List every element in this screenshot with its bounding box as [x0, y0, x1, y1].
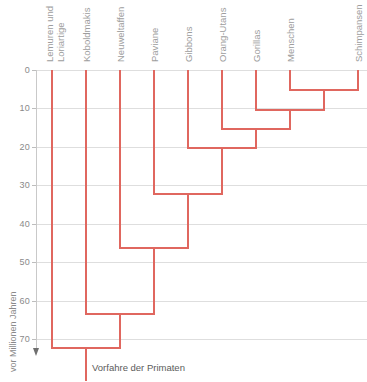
leaf-label-line2: Loriartige [55, 22, 66, 62]
branch-orang-utans-stem [221, 70, 223, 129]
branch-schimpansen-stem [357, 70, 359, 90]
y-tick-label-10: 10 [14, 103, 30, 113]
node-gorillas-clade-stem [289, 109, 291, 129]
y-tick-label-30: 30 [14, 180, 30, 190]
leaf-label-line1: Lemuren und [44, 6, 55, 62]
primate-phylogeny-chart: 0 10 20 30 40 50 60 70 vor Millionen Jah… [0, 0, 367, 382]
tick-mark-0 [32, 70, 36, 71]
node-koboldmakis-clade-stem [119, 313, 121, 348]
tick-mark-40 [32, 224, 36, 225]
node-menschen-schimpansen-stem [323, 89, 325, 110]
tick-mark-70 [32, 339, 36, 340]
y-tick-label-50: 50 [14, 257, 30, 267]
branch-menschen-stem [289, 70, 291, 90]
tick-mark-50 [32, 262, 36, 263]
node-paviane-clade-stem [187, 193, 189, 248]
leaf-label-lemuren-und-loriartige: Lemuren und Loriartige [45, 6, 66, 62]
tick-mark-10 [32, 108, 36, 109]
leaf-label-paviane: Paviane [150, 28, 160, 62]
branch-paviane-stem [153, 70, 155, 194]
tick-mark-30 [32, 185, 36, 186]
leaf-label-menschen: Menschen [286, 18, 296, 62]
y-tick-label-0: 0 [14, 65, 30, 75]
gridline-70 [36, 339, 367, 340]
y-tick-label-40: 40 [14, 219, 30, 229]
branch-gibbons-stem [187, 70, 189, 148]
root-annotation-label: Vorfahre der Primaten [92, 362, 185, 373]
leaf-label-koboldmakis: Koboldmakis [82, 8, 92, 62]
node-neuweltaffen-clade-stem [153, 247, 155, 314]
leaf-label-orang-utans: Orang-Utans [218, 8, 228, 62]
axis-arrow-icon [33, 348, 39, 356]
branch-koboldmakis-stem [85, 70, 87, 313]
leaf-label-neuweltaffen: Neuweltaffen [116, 7, 126, 62]
leaf-label-schimpansen: Schimpansen [354, 4, 364, 62]
branch-neuweltaffen-stem [119, 70, 121, 248]
branch-lemuren-stem [51, 70, 53, 348]
tick-mark-20 [32, 147, 36, 148]
y-axis-line [36, 70, 37, 348]
branch-gorillas-stem [255, 70, 257, 110]
leaf-label-gibbons: Gibbons [184, 27, 194, 62]
node-root-stem [85, 347, 87, 381]
node-gibbons-clade-stem [221, 147, 223, 194]
y-axis-title: vor Millionen Jahren [8, 291, 18, 372]
tick-mark-60 [32, 301, 36, 302]
node-orang-utans-clade-stem [255, 128, 257, 148]
leaf-label-gorillas: Gorillas [252, 30, 262, 62]
y-tick-label-20: 20 [14, 142, 30, 152]
